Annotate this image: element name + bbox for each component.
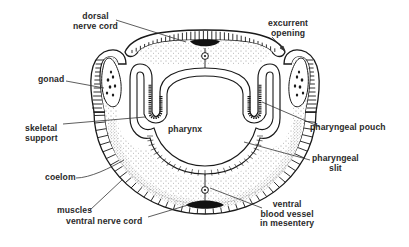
label-pharyngeal-slit: pharyngeal slit: [312, 154, 359, 173]
label-line: opening: [268, 29, 308, 39]
label-line: nerve cord: [73, 22, 118, 32]
label-line: support: [25, 134, 58, 144]
label-gonad: gonad: [38, 75, 64, 85]
hemichordate-cross-section-diagram: dorsal nerve cord excurrent opening gona…: [0, 0, 409, 247]
label-line: slit: [312, 164, 359, 174]
label-line: in mesentery: [260, 219, 314, 229]
label-ventral-blood-vessel: ventral blood vessel in mesentery: [260, 200, 314, 229]
label-muscles: muscles: [57, 206, 92, 216]
label-excurrent-opening: excurrent opening: [268, 19, 308, 38]
label-coelom: coelom: [45, 173, 76, 183]
label-pharyngeal-pouch: pharyngeal pouch: [310, 123, 386, 133]
gonad-right: [289, 58, 308, 107]
label-pharynx: pharynx: [168, 125, 202, 135]
label-ventral-nerve-cord: ventral nerve cord: [66, 217, 142, 227]
label-skeletal-support: skeletal support: [25, 124, 58, 143]
label-dorsal-nerve-cord: dorsal nerve cord: [73, 12, 118, 31]
gonad-left: [102, 58, 121, 107]
